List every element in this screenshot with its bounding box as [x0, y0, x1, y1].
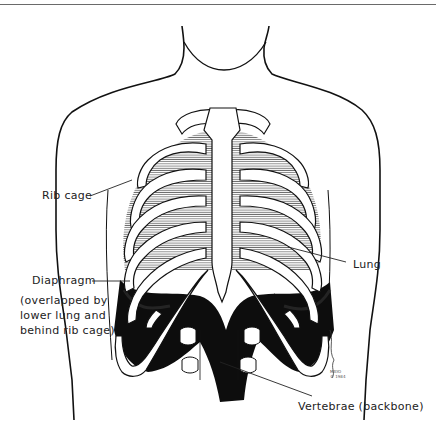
label-diaphragm-note: (overlapped by lower lung and behind rib… [20, 293, 115, 338]
chest-illustration [0, 0, 436, 434]
label-lung: Lung [353, 258, 381, 271]
artist-signature: MAYO © 1984 [330, 369, 345, 379]
label-rib-cage: Rib cage [42, 189, 92, 202]
label-diaphragm: Diaphragm [32, 274, 96, 287]
rib-cage-leader [90, 180, 132, 196]
label-vertebrae: Vertebrae (backbone) [298, 400, 424, 413]
